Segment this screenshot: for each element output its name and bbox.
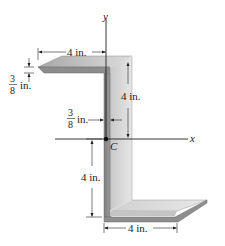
- web-side-face: [110, 56, 132, 217]
- top-thickness-unit: in.: [20, 79, 32, 91]
- bottom-flange-inner: [110, 211, 177, 216]
- web-thickness-denominator: 8: [68, 119, 73, 130]
- centroid-label: C: [110, 140, 118, 152]
- y-axis-label: y: [102, 10, 108, 22]
- top-thickness-denominator: 8: [10, 85, 15, 96]
- top-flange-width-label: 4 in.: [67, 46, 87, 58]
- web-front-top: [104, 67, 110, 73]
- top-thickness-numerator: 3: [10, 73, 15, 84]
- lower-height-label: 4 in.: [81, 171, 101, 183]
- web-thickness-label: 3 8 in.: [67, 107, 89, 130]
- upper-height-label: 4 in.: [121, 90, 141, 102]
- z-section-diagram: y x C: [0, 0, 225, 246]
- web-thickness-unit: in.: [77, 113, 89, 125]
- x-axis-label: x: [189, 132, 195, 144]
- top-flange-front-face: [38, 67, 110, 73]
- bottom-flange-width-label: 4 in.: [128, 222, 148, 234]
- web-thickness-numerator: 3: [68, 107, 73, 118]
- centroid-point: [104, 137, 108, 141]
